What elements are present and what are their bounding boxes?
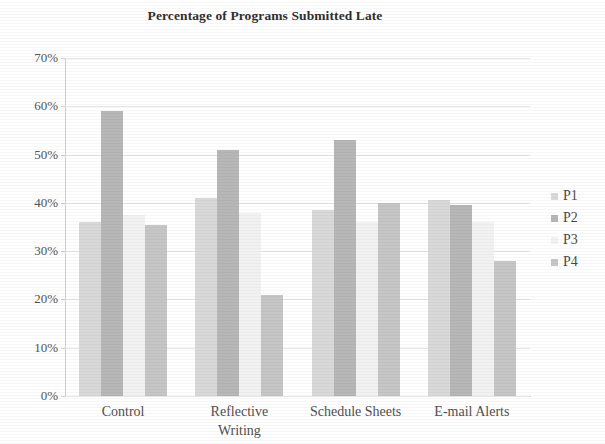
y-axis-tick-label: 60% — [12, 98, 58, 114]
y-axis-tick-label: 10% — [12, 340, 58, 356]
x-axis-category-line: Schedule Sheets — [298, 402, 414, 421]
bar-p4-reflective-writing[interactable] — [261, 295, 283, 396]
x-axis-category-label: Schedule Sheets — [298, 402, 414, 421]
y-axis-tick-label: 20% — [12, 291, 58, 307]
legend-label: P2 — [563, 210, 578, 226]
bar-group — [298, 58, 414, 396]
chart-title: Percentage of Programs Submitted Late — [0, 8, 530, 24]
legend-label: P4 — [563, 254, 578, 270]
x-axis-category-line: Control — [65, 402, 181, 421]
bar-group — [65, 58, 181, 396]
bar-p2-e-mail-alerts[interactable] — [450, 205, 472, 396]
y-axis-tick-label: 40% — [12, 195, 58, 211]
x-axis-category-label: E-mail Alerts — [414, 402, 530, 421]
legend-swatch-icon — [551, 215, 558, 222]
bar-p1-control[interactable] — [79, 222, 101, 396]
y-axis-tick-label: 70% — [12, 50, 58, 66]
bar-group — [414, 58, 530, 396]
bar-p2-control[interactable] — [101, 111, 123, 396]
legend-swatch-icon — [551, 193, 558, 200]
x-axis-category-line: Writing — [181, 421, 297, 440]
x-axis-category-line: E-mail Alerts — [414, 402, 530, 421]
gridline — [65, 396, 530, 397]
bar-p3-control[interactable] — [123, 215, 145, 396]
bar-p1-reflective-writing[interactable] — [195, 198, 217, 396]
legend-label: P1 — [563, 188, 578, 204]
chart-legend: P1P2P3P4 — [551, 185, 605, 273]
bar-p4-control[interactable] — [145, 225, 167, 396]
bar-p1-schedule-sheets[interactable] — [312, 210, 334, 396]
bar-p2-reflective-writing[interactable] — [217, 150, 239, 396]
y-axis-tick-label: 50% — [12, 147, 58, 163]
bar-p3-reflective-writing[interactable] — [239, 213, 261, 396]
legend-swatch-icon — [551, 237, 558, 244]
y-axis-tick-label: 0% — [12, 388, 58, 404]
legend-item-p1[interactable]: P1 — [551, 185, 605, 207]
bar-p2-schedule-sheets[interactable] — [334, 140, 356, 396]
legend-item-p3[interactable]: P3 — [551, 229, 605, 251]
bar-group — [181, 58, 297, 396]
bar-p3-e-mail-alerts[interactable] — [472, 222, 494, 396]
legend-item-p4[interactable]: P4 — [551, 251, 605, 273]
y-axis-tick-label: 30% — [12, 243, 58, 259]
bar-p4-e-mail-alerts[interactable] — [494, 261, 516, 396]
bar-p3-schedule-sheets[interactable] — [356, 222, 378, 396]
y-tick-mark — [61, 396, 65, 397]
bar-p1-e-mail-alerts[interactable] — [428, 200, 450, 396]
y-axis-labels: 70%60%50%40%30%20%10%0% — [8, 0, 58, 444]
x-axis-category-line: Reflective — [181, 402, 297, 421]
legend-swatch-icon — [551, 259, 558, 266]
legend-label: P3 — [563, 232, 578, 248]
x-axis-category-label: Control — [65, 402, 181, 421]
legend-item-p2[interactable]: P2 — [551, 207, 605, 229]
plot-area — [65, 58, 530, 396]
x-axis-labels: ControlReflectiveWritingSchedule SheetsE… — [65, 402, 530, 444]
bar-p4-schedule-sheets[interactable] — [378, 203, 400, 396]
x-axis-category-label: ReflectiveWriting — [181, 402, 297, 440]
